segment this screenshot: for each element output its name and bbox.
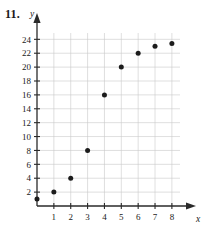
gridlines: [37, 33, 180, 206]
x-tick-label: 4: [102, 212, 107, 222]
y-axis-arrow-icon: [33, 13, 40, 23]
scatter-plot-figure: 11. 24681012141618202224 12345678 y x: [0, 0, 204, 235]
data-point: [153, 44, 158, 49]
data-point: [35, 197, 40, 202]
y-tick-label: 4: [27, 173, 32, 183]
x-tick-label: 3: [85, 212, 90, 222]
y-tick-label: 6: [27, 160, 32, 170]
y-tick-label: 18: [22, 76, 32, 86]
y-tick-label: 20: [22, 62, 32, 72]
y-tick-label: 24: [22, 35, 32, 45]
x-tick-label: 2: [68, 212, 73, 222]
x-tick-label: 1: [52, 212, 57, 222]
plot-svg: 24681012141618202224 12345678 y x: [0, 0, 204, 235]
y-tick-label: 16: [22, 90, 32, 100]
x-axis-arrow-icon: [186, 202, 196, 209]
x-axis-label: x: [195, 214, 201, 224]
plot-area: 24681012141618202224 12345678 y x: [0, 0, 204, 235]
y-tick-label: 8: [27, 146, 32, 156]
data-point: [68, 176, 73, 181]
x-tick-label: 5: [119, 212, 124, 222]
y-tick-label: 14: [22, 104, 32, 114]
data-point: [51, 190, 56, 195]
x-tick-label: 6: [136, 212, 141, 222]
data-point: [102, 92, 107, 97]
y-tick-label: 12: [22, 118, 31, 128]
y-tick-label: 10: [22, 132, 32, 142]
data-point: [119, 65, 124, 70]
data-point: [136, 51, 141, 56]
y-tick-label: 2: [27, 187, 32, 197]
y-axis-label: y: [29, 9, 35, 19]
x-tick-label: 7: [153, 212, 158, 222]
x-tick-label: 8: [170, 212, 175, 222]
data-point: [85, 148, 90, 153]
data-point: [169, 41, 174, 46]
y-tick-label: 22: [22, 48, 31, 58]
